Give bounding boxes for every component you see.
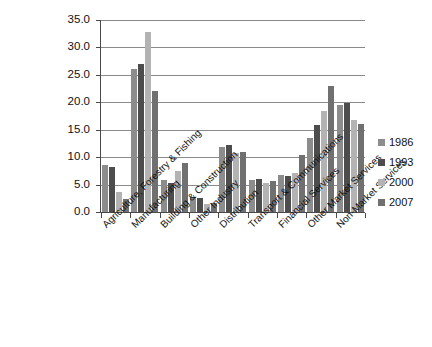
x-tick-mark	[160, 213, 161, 218]
bar	[131, 69, 137, 212]
bar	[314, 125, 320, 212]
y-tick-label: 25.0	[44, 69, 90, 81]
bar	[278, 175, 284, 212]
bar	[358, 124, 364, 212]
bar	[152, 91, 158, 212]
bar	[145, 32, 151, 212]
bar	[233, 153, 239, 212]
bar	[116, 192, 122, 212]
bar	[190, 197, 196, 212]
chart-legend: 1986199320002007	[378, 134, 432, 214]
x-tick-mark	[277, 213, 278, 218]
y-tick-label: 0.0	[44, 206, 90, 218]
legend-item[interactable]: 1986	[378, 134, 432, 150]
bar	[299, 155, 305, 212]
bar-group	[101, 20, 130, 212]
bar-group	[277, 20, 306, 212]
bar	[204, 204, 210, 212]
bar	[285, 176, 291, 212]
legend-label: 1993	[389, 157, 413, 168]
bar	[168, 183, 174, 212]
x-tick-mark	[306, 213, 307, 218]
y-tick-label: 35.0	[44, 14, 90, 26]
bar	[307, 138, 313, 212]
bar	[182, 163, 188, 212]
bar	[321, 111, 327, 212]
bar	[240, 152, 246, 212]
bar	[263, 183, 269, 212]
legend-item[interactable]: 2007	[378, 194, 432, 210]
y-tick-label: 5.0	[44, 179, 90, 191]
bar	[344, 103, 350, 212]
bar-group	[160, 20, 189, 212]
y-tick-label: 20.0	[44, 96, 90, 108]
bar	[351, 120, 357, 212]
bar-chart: 0.05.010.015.020.025.030.035.0 Agricultu…	[0, 0, 432, 347]
legend-label: 2007	[389, 197, 413, 208]
legend-swatch-icon	[378, 199, 385, 206]
bar	[138, 64, 144, 212]
bar-group	[336, 20, 365, 212]
bar	[175, 171, 181, 212]
y-tick-label: 10.0	[44, 151, 90, 163]
legend-item[interactable]: 1993	[378, 154, 432, 170]
legend-swatch-icon	[378, 159, 385, 166]
bar-group	[248, 20, 277, 212]
x-tick-mark	[101, 213, 102, 218]
bar	[123, 199, 129, 212]
x-tick-mark	[248, 213, 249, 218]
bar	[109, 167, 115, 212]
bar	[102, 165, 108, 212]
bar-group	[306, 20, 335, 212]
legend-swatch-icon	[378, 139, 385, 146]
x-tick-mark	[218, 213, 219, 218]
bar-groups	[101, 20, 365, 212]
bar	[211, 203, 217, 212]
legend-swatch-icon	[378, 179, 385, 186]
x-tick-mark	[365, 213, 366, 218]
x-tick-mark	[130, 213, 131, 218]
bar	[249, 180, 255, 212]
bar	[292, 173, 298, 212]
bar-group	[130, 20, 159, 212]
legend-label: 2000	[389, 177, 413, 188]
bar	[197, 198, 203, 212]
y-tick-label: 30.0	[44, 41, 90, 53]
x-axis-ticks	[101, 213, 365, 218]
bar	[270, 181, 276, 212]
bar-group	[218, 20, 247, 212]
bar	[256, 179, 262, 212]
x-tick-mark	[336, 213, 337, 218]
bar	[337, 105, 343, 212]
bar-group	[189, 20, 218, 212]
legend-item[interactable]: 2000	[378, 174, 432, 190]
bar	[328, 86, 334, 212]
y-tick-label: 15.0	[44, 124, 90, 136]
bar	[219, 147, 225, 212]
legend-label: 1986	[389, 137, 413, 148]
x-tick-mark	[189, 213, 190, 218]
bar	[226, 145, 232, 212]
bar	[161, 180, 167, 212]
